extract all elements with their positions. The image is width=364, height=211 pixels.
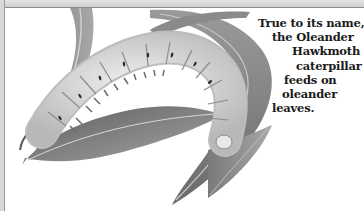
caption-line: the Oleander [258, 30, 362, 44]
scan-left-edge [0, 0, 5, 211]
caption-line: caterpillar [258, 59, 362, 73]
caption-line: leaves. [258, 101, 362, 115]
caption-line: True to its name, [258, 16, 362, 30]
caption-line: Hawkmoth [258, 44, 362, 58]
document-page: True to its name, the Oleander Hawkmoth … [0, 0, 364, 211]
caption-line: oleander [258, 87, 362, 101]
caption-line: feeds on [258, 73, 362, 87]
scan-top-edge [0, 0, 364, 8]
figure-caption: True to its name, the Oleander Hawkmoth … [258, 16, 362, 115]
